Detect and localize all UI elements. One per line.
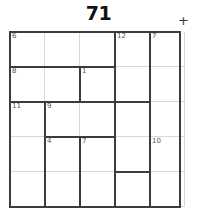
page-title: 71 bbox=[0, 3, 197, 23]
grid-outline bbox=[9, 31, 181, 208]
plus-icon: + bbox=[178, 14, 189, 27]
puzzle-grid[interactable]: 6127811194710 bbox=[10, 32, 180, 207]
puzzle-header: 71 + bbox=[0, 0, 197, 32]
puzzle-app: 71 + 6127811194710 bbox=[0, 0, 197, 220]
